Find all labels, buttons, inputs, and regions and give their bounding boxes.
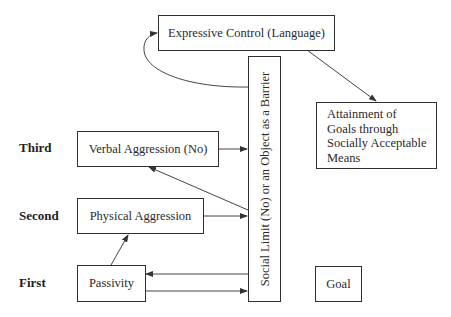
attainment-line-2: Goals through <box>327 122 398 137</box>
goal-box: Goal <box>315 266 362 302</box>
expressive-control-label: Expressive Control (Language) <box>168 26 325 41</box>
attainment-line-4: Means <box>327 151 360 166</box>
attainment-line-3: Socially Acceptable <box>327 136 427 151</box>
physical-aggression-box: Physical Aggression <box>77 198 204 234</box>
row-label-first: First <box>19 275 46 291</box>
arrow-passivity-to-physical <box>111 235 128 265</box>
goal-label: Goal <box>326 277 350 292</box>
arrow-expressive-to-attainment <box>307 50 376 101</box>
row-label-third: Third <box>19 140 52 156</box>
barrier-label: Social Limit (No) or an Object as a Barr… <box>257 72 272 287</box>
attainment-box: Attainment of Goals through Socially Acc… <box>316 102 437 169</box>
attainment-line-1: Attainment of <box>327 107 397 122</box>
expressive-control-box: Expressive Control (Language) <box>158 15 335 51</box>
verbal-aggression-label: Verbal Aggression (No) <box>89 142 208 157</box>
row-label-second: Second <box>19 208 59 224</box>
passivity-label: Passivity <box>89 276 134 291</box>
barrier-box: Social Limit (No) or an Object as a Barr… <box>248 56 281 302</box>
verbal-aggression-box: Verbal Aggression (No) <box>77 131 219 167</box>
physical-aggression-label: Physical Aggression <box>90 209 192 224</box>
passivity-box: Passivity <box>77 265 146 302</box>
